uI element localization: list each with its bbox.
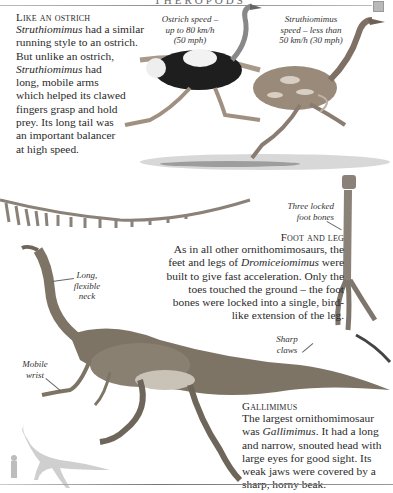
- text-line: large eyes for good sight. Its: [242, 452, 392, 465]
- section-heading-gallimimus: Gallimimus: [242, 400, 392, 412]
- text-line: built to give fast acceleration. Only th…: [100, 270, 344, 283]
- caption-struthiomimus-speed: Struthiomimus speed – less than 50 km/h …: [272, 14, 350, 46]
- text-line: like extension of the leg.: [100, 309, 344, 322]
- text-line: But unlike an ostrich,: [16, 50, 156, 63]
- text-line: sharp, horny beak.: [242, 478, 392, 491]
- gallimimus-body-text: The largest ornithomimosaur was Gallimim…: [242, 412, 392, 492]
- text-line: feet and legs of Dromiceiomimus were: [100, 256, 344, 269]
- footer-rule: [0, 484, 393, 485]
- text-line: an important balancer: [16, 129, 156, 142]
- text-line: bones were locked into a single, bird-: [100, 296, 344, 309]
- ostrich-section: Like an ostrich Struthiomimus had a simi…: [16, 11, 156, 156]
- section-heading-foot: Foot and leg: [100, 231, 344, 243]
- section-heading-ostrich: Like an ostrich: [16, 11, 156, 23]
- ostrich-body-text: Struthiomimus had a similar running styl…: [16, 23, 156, 156]
- text-line: and narrow, snouted head with: [242, 439, 392, 452]
- label-long-flexible-neck: Long, flexible neck: [70, 270, 104, 302]
- foot-section: Foot and leg As in all other ornithomimo…: [100, 231, 344, 323]
- text-line: weak jaws were covered by a: [242, 465, 392, 478]
- gallimimus-section: Gallimimus The largest ornithomimosaur w…: [242, 400, 392, 492]
- text-line: Struthiomimus had a similar: [16, 23, 156, 36]
- text-line: long, mobile arms: [16, 76, 156, 89]
- text-line: prey. Its long tail was: [16, 116, 156, 129]
- text-line: running style to an ostrich.: [16, 36, 156, 49]
- caption-ostrich-speed: Ostrich speed – up to 80 km/h (50 mph): [150, 14, 230, 46]
- text-line: was Gallimimus. It had a long: [242, 425, 392, 438]
- label-sharp-claws: Sharp claws: [272, 334, 302, 355]
- text-line: fingers grasp and hold: [16, 103, 156, 116]
- text-line: Struthiomimus had: [16, 63, 156, 76]
- foot-body-text: As in all other ornithomimosaurs, the fe…: [100, 243, 344, 323]
- text-line: at high speed.: [16, 143, 156, 156]
- text-line: The largest ornithomimosaur: [242, 412, 392, 425]
- label-three-locked-foot-bones: Three locked foot bones: [282, 201, 334, 222]
- text-line: toes touched the ground – the foot: [100, 283, 344, 296]
- text-line: which helped its clawed: [16, 89, 156, 102]
- text-line: As in all other ornithomimosaurs, the: [100, 243, 344, 256]
- label-mobile-wrist: Mobile wrist: [18, 359, 52, 380]
